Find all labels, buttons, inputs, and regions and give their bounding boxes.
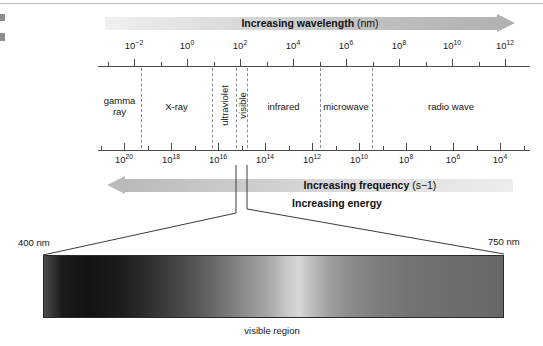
region-label-text: X-ray — [165, 101, 188, 112]
increasing-wavelength-label: Increasing wavelength (nm) — [105, 14, 515, 33]
region-label-microwave: microwave — [323, 101, 368, 112]
wavelength-tick-major — [505, 59, 506, 66]
wavelength-tick-label: 1012 — [496, 40, 514, 51]
region-label-text: gamma — [104, 95, 136, 106]
wavelength-tick-label: 10−2 — [125, 40, 143, 51]
wavelength-tick-label: 100 — [180, 40, 194, 51]
wavelength-tick-major — [452, 59, 453, 66]
region-label-text-line2: ray — [104, 106, 136, 117]
wavelength-tick-major — [346, 59, 347, 66]
increasing-frequency-label: Increasing frequency (s−1) — [227, 176, 513, 195]
wavelength-tick-label: 108 — [392, 40, 406, 51]
edge-artifact-upper — [0, 14, 5, 21]
region-divider — [320, 68, 321, 148]
top-rule — [0, 3, 543, 4]
increasing-wavelength-unit: (nm) — [357, 17, 379, 29]
region-divider — [372, 68, 373, 148]
visible-spectrum-strip — [43, 255, 504, 318]
arrow-head-left-icon — [107, 176, 125, 194]
visible-strip-right-label: 750 nm — [488, 236, 520, 247]
region-label-text: infrared — [267, 101, 299, 112]
region-label-text: radio wave — [428, 101, 474, 112]
electromagnetic-spectrum-figure: Increasing wavelength (nm) 10−2100102104… — [0, 0, 543, 346]
visible-strip-left-label: 400 nm — [18, 237, 50, 248]
frequency-tick-major — [124, 143, 125, 150]
frequency-tick-major — [171, 143, 172, 150]
frequency-tick-minor — [477, 146, 478, 150]
frequency-tick-minor — [101, 146, 102, 150]
increasing-frequency-arrow: Increasing frequency (s−1) — [107, 176, 513, 195]
frequency-tick-minor — [289, 146, 290, 150]
frequency-tick-minor — [242, 146, 243, 150]
wavelength-tick-label: 1010 — [443, 40, 461, 51]
wavelength-tick-label: 102 — [233, 40, 247, 51]
region-divider — [141, 68, 142, 148]
frequency-tick-label: 1020 — [115, 154, 133, 165]
region-label-radio-wave: radio wave — [428, 101, 474, 112]
frequency-tick-major — [218, 143, 219, 150]
frequency-tick-minor — [148, 146, 149, 150]
frequency-tick-major — [265, 143, 266, 150]
frequency-tick-major — [453, 143, 454, 150]
wavelength-tick-label: 106 — [339, 40, 353, 51]
frequency-tick-major — [312, 143, 313, 150]
wavelength-tick-major — [293, 59, 294, 66]
frequency-tick-minor — [336, 146, 337, 150]
region-label-infrared: infrared — [267, 101, 299, 112]
frequency-tick-label: 104 — [493, 154, 507, 165]
frequency-tick-minor — [430, 146, 431, 150]
wavelength-tick-major — [187, 59, 188, 66]
frequency-tick-label: 1016 — [209, 154, 227, 165]
region-label-ultraviolet: ultraviolet — [219, 85, 230, 126]
wavelength-tick-major — [399, 59, 400, 66]
region-label-x-ray: X-ray — [165, 101, 188, 112]
region-label-text: visible — [236, 92, 247, 118]
increasing-wavelength-arrow: Increasing wavelength (nm) — [105, 14, 515, 33]
visible-region-caption: visible region — [244, 325, 299, 336]
region-divider — [212, 68, 213, 148]
frequency-tick-label: 1018 — [162, 154, 180, 165]
frequency-tick-label: 108 — [399, 154, 413, 165]
wavelength-tick-label: 104 — [286, 40, 300, 51]
frequency-tick-label: 1014 — [256, 154, 274, 165]
wavelength-tick-major — [134, 59, 135, 66]
region-label-gamma-ray: gammaray — [104, 95, 136, 117]
region-label-text: ultraviolet — [219, 85, 230, 126]
frequency-axis-line — [98, 150, 530, 151]
frequency-tick-major — [406, 143, 407, 150]
region-label-text: microwave — [323, 101, 368, 112]
edge-artifact-lower — [0, 33, 5, 41]
increasing-energy-text: Increasing energy — [292, 197, 382, 209]
frequency-tick-major — [359, 143, 360, 150]
region-label-visible: visible — [236, 92, 247, 118]
frequency-tick-label: 106 — [446, 154, 460, 165]
frequency-tick-minor — [524, 146, 525, 150]
wavelength-tick-major — [240, 59, 241, 66]
increasing-energy-label: Increasing energy — [227, 197, 447, 209]
increasing-wavelength-text: Increasing wavelength — [241, 17, 354, 29]
frequency-tick-major — [500, 143, 501, 150]
frequency-tick-label: 1012 — [303, 154, 321, 165]
increasing-frequency-unit: (s−1) — [412, 179, 436, 191]
frequency-tick-label: 1010 — [350, 154, 368, 165]
frequency-tick-minor — [195, 146, 196, 150]
frequency-tick-minor — [383, 146, 384, 150]
increasing-frequency-text: Increasing frequency — [304, 179, 410, 191]
